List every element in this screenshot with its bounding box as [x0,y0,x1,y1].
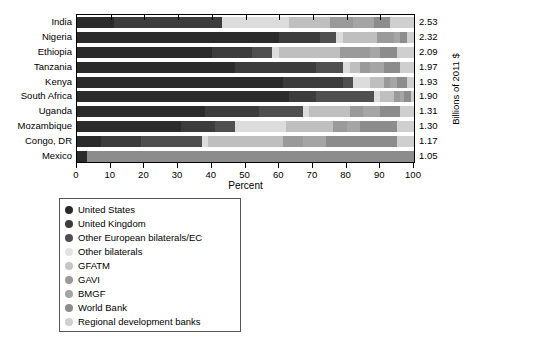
x-tick-label: 50 [230,169,260,180]
legend-item[interactable]: Other European bilaterals/EC [65,231,240,245]
x-tick-mark [379,163,380,168]
bar-segment [77,32,279,43]
x-axis-title: Percent [76,180,415,191]
bar-segment [208,136,282,147]
legend-item[interactable]: World Bank [65,301,240,315]
x-tick-label: 20 [128,169,158,180]
bar-segment [390,17,414,28]
legend-marker-dot-icon [65,262,73,270]
bar-segment [350,62,360,73]
x-tick-mark [346,163,347,168]
legend: United StatesUnited KingdomOther Europea… [59,198,241,332]
bar-segment [397,47,414,58]
legend-item[interactable]: United States [65,203,240,217]
y-tick-label-mozambique: Mozambique [0,120,72,131]
bar-segment [259,106,303,117]
legend-label: Regional development banks [78,315,201,329]
y-tick-label-mexico: Mexico [0,150,72,161]
x-tick-mark-top [380,15,381,20]
x-tick-label: 70 [297,169,327,180]
x-tick-mark-top [111,15,112,20]
legend-marker-dot-icon [65,276,73,284]
bar-segment [397,136,414,147]
bar-segment [77,136,101,147]
legend-item[interactable]: Other bilaterals [65,245,240,259]
legend-marker-dot-icon [65,290,73,298]
x-tick-mark [278,163,279,168]
chart-figure: IndiaNigeriaEthiopiaTanzaniaKenyaSouth A… [0,0,546,343]
stacked-bars-container [77,15,414,162]
bar-segment [397,77,407,88]
bar-segment [272,47,279,58]
bar-segment [407,32,414,43]
x-tick-mark-top [144,15,145,20]
y-tick-label-nigeria: Nigeria [0,31,72,42]
x-tick-mark-top [279,15,280,20]
bar-segment [400,62,413,73]
legend-item[interactable]: BMGF [65,287,240,301]
x-tick-mark-top [347,15,348,20]
bar-segment [235,121,286,132]
bar-segment [77,121,181,132]
bar-segment [380,106,400,117]
y-axis-country-labels: IndiaNigeriaEthiopiaTanzaniaKenyaSouth A… [0,14,74,163]
x-tick-mark [211,163,212,168]
bar-segment [343,32,377,43]
bar-row [77,77,414,88]
bar-segment [350,106,363,117]
legend-marker-dot-icon [65,318,73,326]
bar-segment [289,91,316,102]
x-tick-mark-top [212,15,213,20]
y-tick-label-south-africa: South Africa [0,90,72,101]
x-tick-mark [110,163,111,168]
bar-segment [400,106,413,117]
legend-marker-dot-icon [65,220,73,228]
bar-row [77,32,414,43]
legend-label: World Bank [78,301,127,315]
bar-segment [374,17,391,28]
bar-segment [283,77,344,88]
bar-segment [411,91,414,102]
bar-segment [340,47,370,58]
bar-segment [370,47,380,58]
bar-row [77,151,414,162]
y-tick-label-ethiopia: Ethiopia [0,46,72,57]
y-tick-label-congo-dr: Congo, DR [0,135,72,146]
legend-label: Other European bilaterals/EC [78,231,202,245]
x-tick-label: 80 [331,169,361,180]
bar-segment [343,77,353,88]
right-axis-title: Billions of 2011 $ [447,14,463,163]
bar-row [77,136,414,147]
legend-item[interactable]: Regional development banks [65,315,240,329]
bar-segment [384,62,401,73]
bar-segment [360,121,397,132]
legend-marker-dot-icon [65,304,73,312]
bar-row [77,62,414,73]
legend-item[interactable]: United Kingdom [65,217,240,231]
bar-segment [330,17,354,28]
bar-segment [370,77,383,88]
bar-segment [77,91,289,102]
legend-marker-dot-icon [65,248,73,256]
legend-item[interactable]: GFATM [65,259,240,273]
right-axis-title-text: Billions of 2011 $ [450,53,461,125]
bar-segment [333,121,346,132]
bar-segment [326,136,397,147]
legend-marker-dot-icon [65,206,73,214]
bar-segment [343,62,350,73]
bar-segment [279,47,340,58]
bar-segment [380,91,393,102]
bar-segment [77,17,114,28]
legend-item[interactable]: GAVI [65,273,240,287]
x-tick-mark-top [246,15,247,20]
bar-segment [289,17,329,28]
bar-segment [212,47,252,58]
bar-segment [77,47,212,58]
bar-segment [316,91,373,102]
bar-segment [394,32,401,43]
bar-segment [77,151,87,162]
bar-segment [390,77,397,88]
bar-segment [397,121,414,132]
y-tick-label-tanzania: Tanzania [0,61,72,72]
bar-segment [407,77,414,88]
